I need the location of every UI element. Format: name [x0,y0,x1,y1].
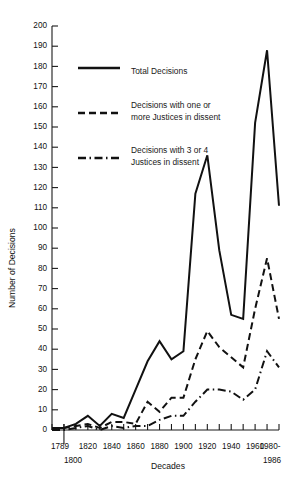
legend-label-1-line2: more Justices in dissent [131,112,221,122]
y-tick-label: 30 [38,365,48,374]
x-axis-start-sublabel: 1800 [64,456,83,465]
x-tick-label: 1820 [79,442,98,451]
y-tick-label: 190 [33,41,47,50]
y-tick-label: 140 [33,142,47,151]
x-axis-start-label: 1789 [51,442,70,451]
x-tick-label: 1880 [150,442,169,451]
y-tick-label: 80 [38,264,48,273]
legend-label-1: Decisions with one or [131,100,211,110]
y-tick-label: 50 [38,324,48,333]
x-axis-end-label: 1980- [260,442,281,451]
line-chart: 0102030405060708090100110120130140150160… [0,0,303,488]
y-tick-label: 160 [33,102,47,111]
y-tick-label: 10 [38,405,48,414]
chart-figure: 0102030405060708090100110120130140150160… [0,0,303,488]
y-tick-label: 100 [33,223,47,232]
x-tick-label: 1860 [127,442,146,451]
y-tick-label: 170 [33,82,47,91]
y-tick-label: 60 [38,304,48,313]
chart-legend: Total DecisionsDecisions with one ormore… [78,66,221,167]
x-tick-label: 1840 [103,442,122,451]
y-tick-label: 70 [38,284,48,293]
y-tick-label: 90 [38,243,48,252]
x-axis-ticks: 18201840186018801900192019401960 [52,424,279,451]
legend-label-2: Decisions with 3 or 4 [131,145,209,155]
y-tick-label: 0 [42,425,47,434]
legend-label-2-line2: Justices in dissent [131,157,200,167]
y-tick-label: 200 [33,21,47,30]
x-axis-end-sublabel: 1986 [263,456,282,465]
x-tick-label: 1940 [222,442,241,451]
y-tick-label: 40 [38,344,48,353]
y-tick-label: 130 [33,163,47,172]
y-axis-ticks: 0102030405060708090100110120130140150160… [33,21,58,434]
y-tick-label: 180 [33,62,47,71]
y-tick-label: 110 [34,203,47,212]
y-tick-label: 20 [38,385,48,394]
x-tick-label: 1920 [198,442,217,451]
x-axis-title: Decades [151,461,185,471]
y-tick-label: 150 [33,122,47,131]
y-axis-title: Number of Decisions [7,228,17,308]
y-tick-label: 120 [33,183,47,192]
legend-label-0: Total Decisions [131,66,187,76]
x-tick-label: 1900 [174,442,193,451]
